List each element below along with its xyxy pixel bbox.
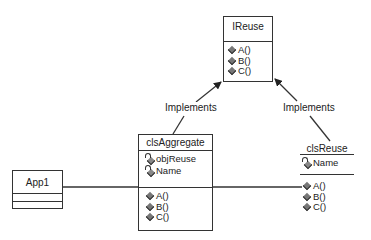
field-icon xyxy=(145,154,155,164)
method-item: A() xyxy=(227,45,272,56)
method-item: C() xyxy=(227,66,272,77)
method-icon xyxy=(302,181,312,191)
method-list: A() B() C() xyxy=(139,188,212,223)
divider xyxy=(300,174,354,175)
class-app1[interactable]: App1 xyxy=(12,170,63,209)
method-item: C() xyxy=(145,212,212,223)
method-icon xyxy=(302,192,312,202)
class-ireuse[interactable]: IReuse A() B() C() xyxy=(223,16,273,82)
field-icon xyxy=(145,166,155,176)
class-name: IReuse xyxy=(224,17,272,42)
method-icon xyxy=(145,202,155,212)
implements-arrow-left-lower xyxy=(173,116,184,134)
attribute-list: objReuse Name xyxy=(139,151,212,188)
class-name: clsAggregate xyxy=(139,135,212,151)
field-icon xyxy=(302,158,312,168)
class-name: App1 xyxy=(13,171,62,194)
method-icon xyxy=(145,191,155,201)
method-item: C() xyxy=(302,202,326,213)
method-section xyxy=(13,202,62,209)
attribute-item: objReuse xyxy=(145,153,212,165)
attribute-section xyxy=(13,194,62,202)
attribute-item: Name xyxy=(145,165,212,177)
method-icon xyxy=(227,56,237,66)
relationship-label: Implements xyxy=(163,102,219,114)
method-icon xyxy=(227,45,237,55)
divider xyxy=(300,154,354,155)
implements-arrow-right-upper xyxy=(275,79,297,101)
method-list: A() B() C() xyxy=(302,181,326,213)
implements-arrow-left-upper xyxy=(196,82,221,102)
method-icon xyxy=(145,212,155,222)
attribute-item: Name xyxy=(302,157,338,169)
method-icon xyxy=(302,202,312,212)
class-name: clsReuse xyxy=(300,143,354,154)
method-item: A() xyxy=(302,181,326,192)
class-clsaggregate[interactable]: clsAggregate objReuse Name A() B() C() xyxy=(138,134,213,231)
implements-arrow-right-lower xyxy=(310,116,330,141)
class-clsreuse[interactable]: clsReuse Name A() B() C() xyxy=(300,143,354,218)
relationship-label: Implements xyxy=(281,102,337,114)
uml-diagram: IReuse A() B() C() Implements Implements… xyxy=(0,0,371,240)
method-list: A() B() C() xyxy=(224,42,272,77)
method-item: A() xyxy=(145,191,212,202)
method-icon xyxy=(227,66,237,76)
